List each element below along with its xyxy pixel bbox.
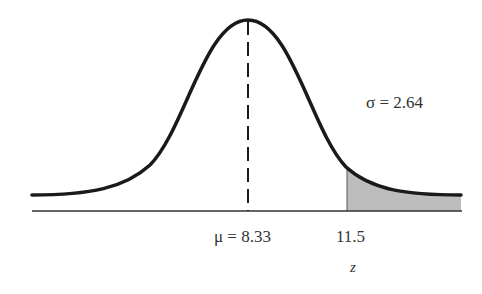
z-axis-label: z: [349, 259, 356, 275]
normal-distribution-diagram: σ = 2.64 μ = 8.33 11.5 z: [0, 0, 482, 294]
mean-label: μ = 8.33: [214, 227, 271, 246]
shaded-tail-region: [347, 168, 461, 211]
cutoff-label: 11.5: [336, 227, 365, 246]
sd-label: σ = 2.64: [366, 93, 424, 112]
